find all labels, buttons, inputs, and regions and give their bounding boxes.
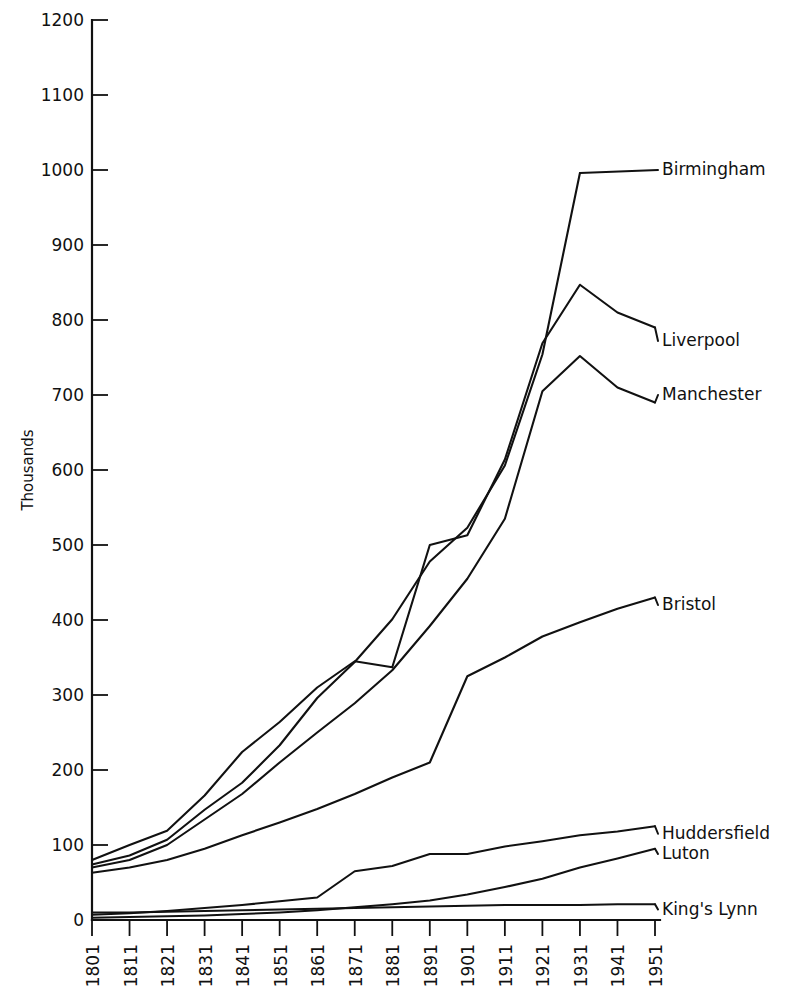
series-line-liverpool [92, 285, 655, 860]
y-tick-label: 500 [52, 535, 84, 555]
x-tick-label: 1931 [571, 944, 591, 987]
series-label-birmingham: Birmingham [662, 159, 766, 179]
x-tick-label: 1911 [496, 944, 516, 987]
y-tick-label: 1000 [41, 160, 84, 180]
x-tick-label: 1901 [458, 944, 478, 987]
x-tick-label: 1811 [121, 944, 141, 987]
x-tick-label: 1861 [308, 944, 328, 987]
leader-line-huddersfield [655, 826, 658, 834]
series-label-bristol: Bristol [662, 594, 716, 614]
series-label-liverpool: Liverpool [662, 330, 740, 350]
x-tick-label: 1891 [421, 944, 441, 987]
y-tick-label: 0 [73, 910, 84, 930]
y-tick-label: 700 [52, 385, 84, 405]
series-line-birmingham [92, 173, 580, 865]
x-tick-group: 1801181118211831184118511861187118811891… [83, 920, 666, 987]
x-tick-label: 1921 [533, 944, 553, 987]
series-group [92, 170, 658, 918]
y-tick-label: 300 [52, 685, 84, 705]
x-tick-label: 1851 [271, 944, 291, 987]
x-tick-label: 1821 [158, 944, 178, 987]
population-line-chart: 0100200300400500600700800900100011001200… [0, 0, 787, 994]
leader-line-liverpool [655, 328, 658, 342]
leader-line-manchester [655, 395, 658, 403]
series-label-king-s-lynn: King's Lynn [662, 899, 758, 919]
series-label-group: BirminghamLiverpoolManchesterBristolHudd… [662, 159, 770, 919]
y-tick-label: 400 [52, 610, 84, 630]
leader-line-bristol [655, 598, 658, 606]
x-tick-label: 1801 [83, 944, 103, 987]
series-label-luton: Luton [662, 843, 710, 863]
y-tick-label: 200 [52, 760, 84, 780]
x-tick-label: 1841 [233, 944, 253, 987]
x-tick-label: 1941 [608, 944, 628, 987]
x-tick-label: 1831 [196, 944, 216, 987]
series-label-huddersfield: Huddersfield [662, 823, 770, 843]
y-tick-label: 600 [52, 460, 84, 480]
series-label-manchester: Manchester [662, 384, 761, 404]
leader-line-king-s-lynn [655, 904, 658, 909]
y-tick-label: 800 [52, 310, 84, 330]
x-tick-label: 1881 [383, 944, 403, 987]
y-tick-label: 100 [52, 835, 84, 855]
y-tick-group: 0100200300400500600700800900100011001200 [41, 10, 108, 930]
x-tick-label: 1951 [646, 944, 666, 987]
leader-line-luton [655, 849, 658, 854]
y-tick-label: 900 [52, 235, 84, 255]
chart-svg: 0100200300400500600700800900100011001200… [0, 0, 787, 994]
leader-line-birmingham [580, 170, 658, 173]
y-axis-title: Thousands [19, 429, 37, 511]
series-line-manchester [92, 356, 655, 868]
y-tick-label: 1200 [41, 10, 84, 30]
x-tick-label: 1871 [346, 944, 366, 987]
y-tick-label: 1100 [41, 85, 84, 105]
